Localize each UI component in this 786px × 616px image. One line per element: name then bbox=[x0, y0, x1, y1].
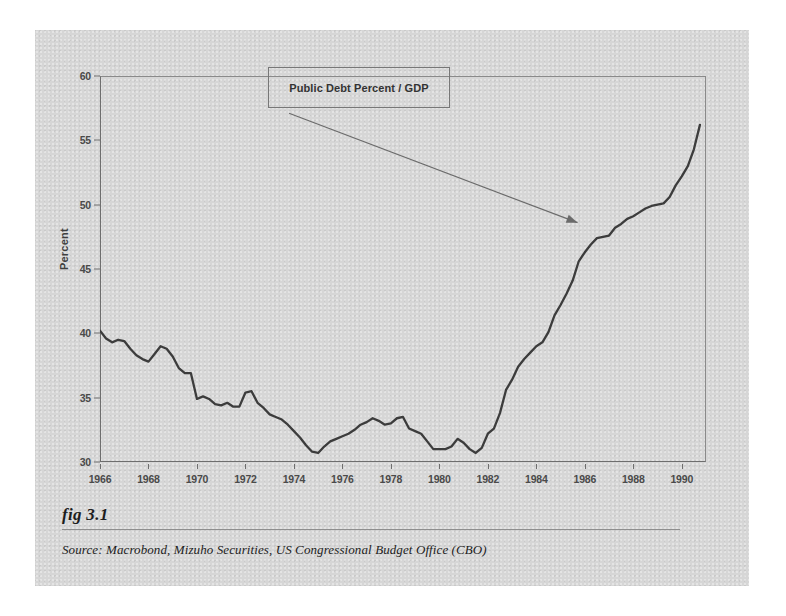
x-tick-mark bbox=[682, 464, 683, 469]
x-tick-mark bbox=[197, 464, 198, 469]
figure-source: Source: Macrobond, Mizuho Securities, US… bbox=[62, 542, 702, 558]
figure-caption-block: fig 3.1 Source: Macrobond, Mizuho Securi… bbox=[62, 505, 702, 558]
caption-divider bbox=[62, 529, 680, 530]
x-tick-label: 1984 bbox=[525, 473, 548, 485]
y-axis-title: Percent bbox=[58, 228, 70, 270]
x-tick-mark bbox=[536, 464, 537, 469]
figure-root: Percent 30354045505560 19661968197019721… bbox=[0, 0, 786, 616]
x-tick-mark bbox=[245, 464, 246, 469]
x-tick-mark bbox=[633, 464, 634, 469]
series-legend-label: Public Debt Percent / GDP bbox=[289, 82, 428, 94]
x-tick-label: 1978 bbox=[380, 473, 403, 485]
series-legend-box: Public Debt Percent / GDP bbox=[268, 67, 450, 108]
arrow-head bbox=[566, 215, 578, 223]
x-tick-label: 1976 bbox=[331, 473, 354, 485]
x-tick-mark bbox=[391, 464, 392, 469]
figure-number: fig 3.1 bbox=[62, 505, 702, 525]
x-tick-mark bbox=[488, 464, 489, 469]
x-tick-label: 1988 bbox=[622, 473, 645, 485]
x-tick-label: 1968 bbox=[137, 473, 160, 485]
arrow-shaft bbox=[289, 113, 577, 222]
callout-arrow bbox=[100, 76, 706, 462]
x-tick-mark bbox=[585, 464, 586, 469]
x-tick-mark bbox=[148, 464, 149, 469]
x-tick-label: 1982 bbox=[477, 473, 500, 485]
x-tick-label: 1986 bbox=[574, 473, 597, 485]
x-tick-mark bbox=[294, 464, 295, 469]
x-tick-label: 1966 bbox=[89, 473, 112, 485]
x-tick-mark bbox=[439, 464, 440, 469]
x-tick-label: 1972 bbox=[234, 473, 257, 485]
x-tick-label: 1980 bbox=[428, 473, 451, 485]
x-tick-mark bbox=[342, 464, 343, 469]
chart-plot-area: 30354045505560 1966196819701972197419761… bbox=[100, 76, 706, 464]
x-tick-label: 1970 bbox=[186, 473, 209, 485]
x-tick-mark bbox=[100, 464, 101, 469]
x-tick-label: 1990 bbox=[670, 473, 693, 485]
x-tick-label: 1974 bbox=[283, 473, 306, 485]
